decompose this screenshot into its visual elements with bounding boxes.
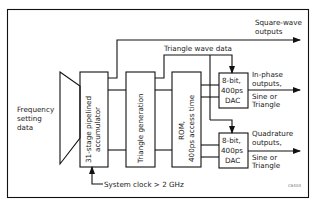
input-label: Frequency setting data (17, 105, 56, 132)
triangle-generation-label: Triangle generation (136, 93, 145, 164)
square-wave-output-label: Square-wave outputs (255, 18, 304, 36)
triangle-wave-data-line (155, 55, 232, 78)
system-clock-line (92, 167, 103, 184)
triangle-wave-data-label: Triangle wave data (163, 44, 232, 53)
accumulator-label: 31-stage pipelined (84, 96, 93, 163)
system-clock-label: System clock > 2 GHz (104, 180, 184, 189)
figure-code: C6404 (288, 183, 301, 188)
svg-text:400ps access time: 400ps access time (187, 94, 196, 162)
dac1-label: 8-bit, 400ps DAC (221, 76, 245, 105)
quadrature-output-label: Quadrature outputs, Sine or Triangle (251, 129, 295, 170)
rom-label: ROM, (177, 121, 186, 140)
svg-text:accumulator: accumulator (93, 107, 102, 152)
dac2-label: 8-bit, 400ps DAC (221, 136, 245, 165)
input-funnel (60, 72, 80, 164)
block-diagram: Frequency setting data 31-stage pipeline… (0, 0, 318, 205)
